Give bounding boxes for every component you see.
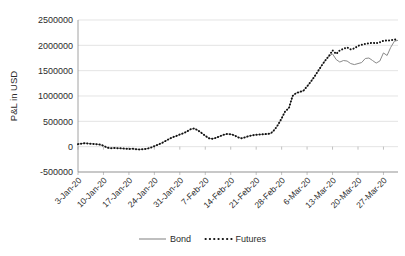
y-axis-tick-label: 2000000 bbox=[38, 41, 73, 51]
chart-container: 25000002000000150000010000005000000-5000… bbox=[0, 0, 405, 256]
y-axis-tick-label: 1500000 bbox=[38, 66, 73, 76]
y-axis-title: P&L in USD bbox=[8, 71, 19, 121]
y-axis-tick-label: 500000 bbox=[43, 117, 73, 127]
y-axis-tick-label: 1000000 bbox=[38, 91, 73, 101]
y-axis-tick-label: 2500000 bbox=[38, 15, 73, 25]
y-axis-tick-label: 0 bbox=[68, 142, 73, 152]
y-axis-tick-label: -500000 bbox=[40, 167, 73, 177]
legend-label-futures: Futures bbox=[236, 234, 267, 244]
chart-background bbox=[0, 0, 405, 256]
legend-label-bond: Bond bbox=[170, 234, 191, 244]
pnl-line-chart: 25000002000000150000010000005000000-5000… bbox=[0, 0, 405, 256]
